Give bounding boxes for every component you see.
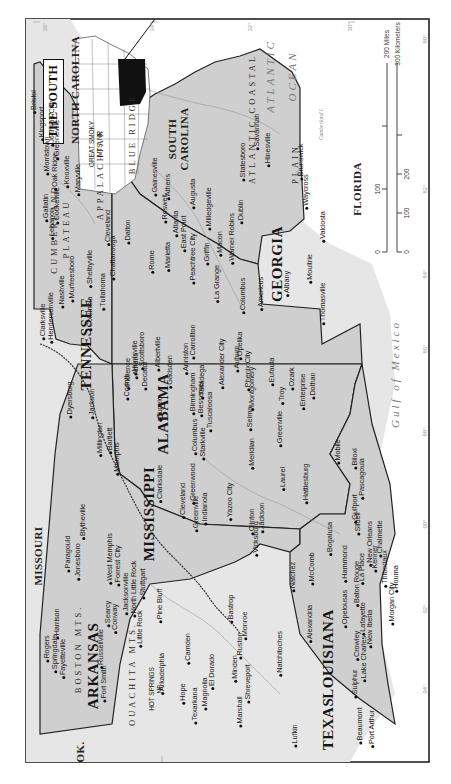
city-texarkana: Texarkana xyxy=(191,687,198,724)
city-cleveland-ms: Cleveland xyxy=(179,483,186,519)
city-columbus-ga: Columbus xyxy=(239,278,246,314)
lon-tick-80: 80° xyxy=(422,34,428,43)
city-macon: Macon xyxy=(216,231,223,257)
city-corinth: Corinth xyxy=(123,373,130,400)
city-knoxville: Knoxville xyxy=(63,156,70,189)
city-conway: Conway xyxy=(111,604,118,634)
city-lufkin: Lufkin xyxy=(291,724,298,747)
city-tuscaloosa: Tuscaloosa xyxy=(206,392,213,433)
city-mobile: Mobile xyxy=(334,439,341,464)
city-jackson-ms: Jackson xyxy=(258,503,265,533)
city-shelbyville: Shelbyville xyxy=(86,250,93,288)
city-sulphur: Sulphur xyxy=(351,670,358,699)
city-memphis: Memphis xyxy=(113,442,120,475)
city-dothan: Dothan xyxy=(309,372,316,399)
city-la-grange: La Grange xyxy=(213,265,220,303)
map-canvas: THE SOUTH NORTH CAROLINA SOUTH CAROLINA … xyxy=(0,0,451,784)
city-selma: Selma xyxy=(246,407,253,431)
scale-miles-0: 0 xyxy=(375,250,382,254)
city-thomasville: Thomasville xyxy=(319,283,326,325)
city-montgomery: Montgomery xyxy=(248,367,255,411)
region-label-plateau: PLATEAU xyxy=(62,200,71,259)
lon-tick-94: 94° xyxy=(422,684,428,693)
water-label-ocean: OCEAN xyxy=(287,50,298,101)
park-label-hot-springs: HOT SPRINGS xyxy=(149,667,156,711)
city-millington: Millington xyxy=(96,423,103,457)
city-bastrop: Bastrop xyxy=(227,595,234,624)
city-chattanooga: Chattanooga xyxy=(109,235,116,280)
city-valdosta: Valdosta xyxy=(319,211,326,242)
city-hattiesburg: Hattiesburg xyxy=(302,464,309,505)
city-lake-charles: Lake Charles xyxy=(360,636,367,682)
city-griffin: Griffin xyxy=(203,243,210,266)
region-label-blue-ridge: BLUE RIDGE xyxy=(128,94,137,174)
state-label-north-carolina: NORTH CAROLINA xyxy=(70,36,81,144)
state-label-florida: FLORIDA xyxy=(352,162,363,216)
state-label-texas: TEXAS xyxy=(321,698,336,751)
lon-tick-92: 92° xyxy=(422,604,428,613)
city-bessemer: Bessemer xyxy=(197,381,204,417)
city-tupelo: Tupelo xyxy=(156,396,163,422)
city-hendersonville: Hendersonville xyxy=(47,292,54,344)
city-dublin: Dublin xyxy=(237,200,244,224)
lon-tick-90: 90° xyxy=(422,519,428,528)
city-beaumont: Beaumont xyxy=(356,708,363,745)
city-meridian: Meridian xyxy=(248,438,255,470)
city-clarksdale: Clarksdale xyxy=(156,465,163,503)
city-tullahoma: Tullahoma xyxy=(99,273,106,310)
lon-tick-88: 88° xyxy=(422,427,428,436)
city-marshall: Marshall xyxy=(236,696,243,727)
city-enterprise: Enterprise xyxy=(299,374,306,411)
city-starkville: Starkville xyxy=(199,428,206,461)
island-label-cumberland: Cumberland I. xyxy=(319,108,325,140)
scale-miles-100: 100 xyxy=(375,184,382,195)
city-alexandria: Alexandria xyxy=(306,605,313,643)
city-arkadelphia: Arkadelphia xyxy=(158,653,165,695)
city-carrollton: Carrollton xyxy=(189,324,196,359)
city-warner-robins: Warner Robins xyxy=(228,213,235,265)
city-greenville-ms: Greenville xyxy=(192,496,199,532)
city-augusta: Augusta xyxy=(189,179,196,209)
city-stuttgart: Stuttgart xyxy=(139,568,146,599)
state-label-oklahoma: OK. xyxy=(75,741,86,762)
city-dyersburg: Dyersburg xyxy=(66,381,73,418)
city-el-dorado: El Dorado xyxy=(208,654,215,690)
city-greenville-al: Greenville xyxy=(276,411,283,447)
scale-km-100: 100 xyxy=(404,208,411,219)
city-statesboro: Statesboro xyxy=(239,143,246,182)
lat-tick-32: 32° xyxy=(247,22,253,31)
city-peachtree-city: Peachtree City xyxy=(189,233,196,284)
water-label-atlantic: ATLANTIC xyxy=(265,39,276,113)
city-yazoo-city: Yazoo City xyxy=(226,483,233,521)
state-label-mississippi: MISSISSIPPI xyxy=(142,467,157,562)
city-laurel: Laurel xyxy=(279,467,286,491)
city-mccomb: McComb xyxy=(308,553,315,586)
lon-tick-86: 86° xyxy=(422,344,428,353)
lat-tick-34: 34° xyxy=(149,22,155,31)
city-indianola: Indianola xyxy=(201,492,208,525)
city-moultrie: Moultrie xyxy=(306,254,313,284)
city-dalton: Dalton xyxy=(124,220,131,245)
city-hinesville: Hinesville xyxy=(264,133,271,168)
state-label-south-carolina-2: CAROLINA xyxy=(179,107,190,170)
city-minden: Minden xyxy=(231,655,238,683)
city-americus: Americus xyxy=(257,277,264,311)
scale-km-200: 200 xyxy=(404,169,411,180)
state-label-louisiana: LOUISIANA xyxy=(321,609,336,699)
city-port-arthur: Port Arthur xyxy=(368,710,375,748)
park-label-great-smoky: GREAT SMOKY xyxy=(89,121,96,167)
lon-tick-82: 82° xyxy=(422,184,428,193)
city-paragould: Paragould xyxy=(64,536,71,573)
city-roswell: Roswell xyxy=(161,194,168,223)
scale-km-0: 0 xyxy=(404,250,411,254)
water-label-gulf-of-mexico: Gulf of Mexico xyxy=(390,320,401,428)
city-pascagoula: Pascagoula xyxy=(358,458,365,500)
city-pine-bluff: Pine Bluff xyxy=(156,589,163,624)
city-athens-al: Athens xyxy=(132,353,139,379)
city-bogalusa: Bogalusa xyxy=(326,522,333,556)
city-opelousas: Opelousas xyxy=(341,590,348,628)
city-shreveport: Shreveport xyxy=(244,664,251,703)
scale-miles-200: 200 Miles xyxy=(384,30,391,58)
city-little-rock: Little Rock xyxy=(136,610,143,647)
city-jackson-tn: Jackson xyxy=(88,389,95,419)
